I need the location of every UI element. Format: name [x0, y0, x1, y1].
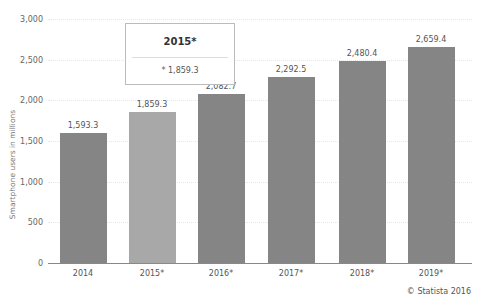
- y-tick: 3,000: [0, 15, 43, 24]
- y-tick: 1,000: [0, 178, 43, 187]
- x-tick: 2016*: [186, 269, 256, 278]
- y-tick: 2,500: [0, 56, 43, 65]
- tooltip: 2015* * 1,859.3: [125, 23, 235, 85]
- source-credit[interactable]: © Statista 2016: [407, 287, 471, 296]
- bar-2016[interactable]: [198, 94, 245, 263]
- value-label: 2,480.4: [327, 49, 397, 58]
- y-tick: 500: [0, 218, 43, 227]
- y-tick: 1,500: [0, 137, 43, 146]
- value-label: 2,292.5: [256, 65, 326, 74]
- bar-2019[interactable]: [408, 47, 455, 263]
- y-axis-label: Smartphone users in millions: [8, 105, 17, 225]
- bar-2017[interactable]: [268, 77, 315, 263]
- tooltip-divider: [132, 57, 228, 58]
- tooltip-value: * 1,859.3: [126, 66, 234, 75]
- y-tick: 0: [0, 259, 43, 268]
- tooltip-title: 2015*: [126, 36, 234, 47]
- value-label: 2,659.4: [396, 35, 466, 44]
- x-tick: 2019*: [396, 269, 466, 278]
- x-tick: 2017*: [256, 269, 326, 278]
- bar-2014[interactable]: [60, 133, 107, 263]
- value-label: 1,859.3: [117, 100, 187, 109]
- bar-2018[interactable]: [339, 61, 386, 263]
- x-axis: [48, 263, 472, 264]
- x-tick: 2018*: [327, 269, 397, 278]
- y-tick: 2,000: [0, 96, 43, 105]
- bar-2015[interactable]: [129, 112, 176, 263]
- gridline: [48, 19, 472, 20]
- x-tick: 2015*: [117, 269, 187, 278]
- value-label: 1,593.3: [48, 121, 118, 130]
- x-tick: 2014: [48, 269, 118, 278]
